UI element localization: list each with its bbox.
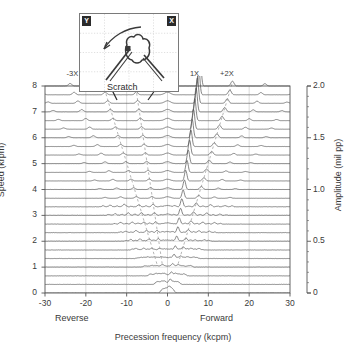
scratch-caption: Scratch [107, 82, 138, 92]
y-axis-title: Speed (krpm) [0, 143, 6, 198]
y-tick-label: 6 [15, 132, 37, 142]
axes [42, 86, 312, 297]
orbit-inset-panel: Y X [79, 13, 179, 92]
y2-tick-label: 1.0 [313, 184, 339, 194]
probe-label-y: Y [82, 16, 91, 26]
rub-leg-left [106, 49, 130, 80]
harmonic-annotation: +2X [220, 69, 234, 78]
harmonic-guide [178, 83, 232, 264]
x-tick-label: -10 [113, 298, 141, 308]
y-tick-label: 4 [15, 184, 37, 194]
y2-tick-label: 0.5 [313, 235, 339, 245]
rub-leg-right [144, 55, 164, 78]
x-tick-label: -30 [31, 298, 59, 308]
x-tick-label: 10 [194, 298, 222, 308]
orbit-inset-graphic [80, 14, 178, 91]
x-axis-title: Precession frequency (kcpm) [0, 332, 346, 342]
y-tick-label: 7 [15, 106, 37, 116]
y2-axis-title: Amplitude (mil pp) [333, 139, 343, 212]
y2-tick-label: 2.0 [313, 80, 339, 90]
y-tick-label: 8 [15, 80, 37, 90]
harmonic-guide [135, 83, 162, 264]
rub-leg-right-2 [143, 58, 162, 81]
y-tick-label: 5 [15, 158, 37, 168]
probe-label-x: X [167, 16, 176, 26]
y-tick-label: 0 [15, 287, 37, 297]
x-tick-label: 0 [154, 298, 182, 308]
harmonic-annotation: -3X [67, 69, 79, 78]
keyphasor-dot-icon [126, 46, 131, 51]
y2-tick-label: 1.5 [313, 132, 339, 142]
y2-tick-label: 0 [313, 287, 339, 297]
y-tick-label: 1 [15, 261, 37, 271]
x-tick-label: -20 [72, 298, 100, 308]
y-tick-label: 2 [15, 235, 37, 245]
chart-root: Speed (krpm) Amplitude (mil pp) Precessi… [0, 0, 346, 351]
inset-gridlines [80, 14, 178, 91]
harmonic-annotation: 1X [190, 69, 199, 78]
x-tick-label: 20 [235, 298, 263, 308]
x-tick-label: 30 [276, 298, 304, 308]
y-tick-label: 3 [15, 209, 37, 219]
direction-label-reverse: Reverse [55, 313, 89, 323]
direction-label-forward: Forward [200, 313, 233, 323]
